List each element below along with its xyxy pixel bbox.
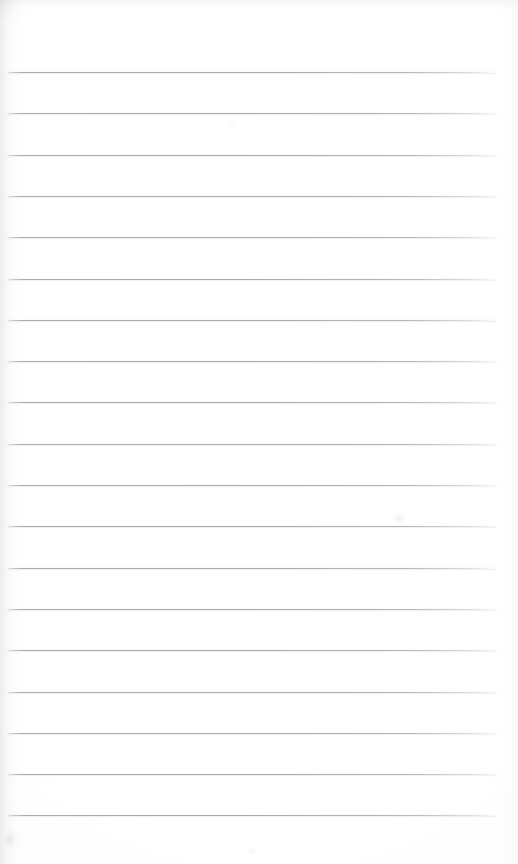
- ruled-line: [7, 526, 497, 527]
- ruled-line: [7, 113, 497, 114]
- ruled-line: [7, 444, 497, 445]
- ruled-line: [7, 279, 497, 280]
- ruled-line: [7, 72, 497, 73]
- ruled-line: [7, 609, 497, 610]
- ruled-line: [7, 402, 497, 403]
- ruled-line: [7, 361, 497, 362]
- ruled-line: [7, 155, 497, 156]
- right-edge-shadow: [502, 0, 518, 864]
- ruled-line: [7, 320, 497, 321]
- ruled-lines-layer: [0, 0, 518, 864]
- ruled-line: [7, 774, 497, 775]
- ruled-line: [7, 196, 497, 197]
- ruled-line: [7, 237, 497, 238]
- top-edge-shadow: [0, 0, 518, 14]
- ruled-line: [7, 650, 497, 651]
- left-edge-shadow: [0, 0, 26, 864]
- scanned-page: Blank Ruled Notepad Page: [0, 0, 518, 864]
- paper-surface: [0, 0, 518, 864]
- scan-smudge: [226, 118, 238, 128]
- ruled-line: [7, 815, 497, 816]
- scan-smudge: [2, 828, 18, 850]
- scan-smudge: [246, 846, 258, 855]
- scan-smudge: [392, 512, 406, 524]
- ruled-line: [7, 568, 497, 569]
- ruled-line: [7, 485, 497, 486]
- ruled-line: [7, 692, 497, 693]
- top-left-corner-shading: [0, 0, 22, 30]
- ruled-line: [7, 733, 497, 734]
